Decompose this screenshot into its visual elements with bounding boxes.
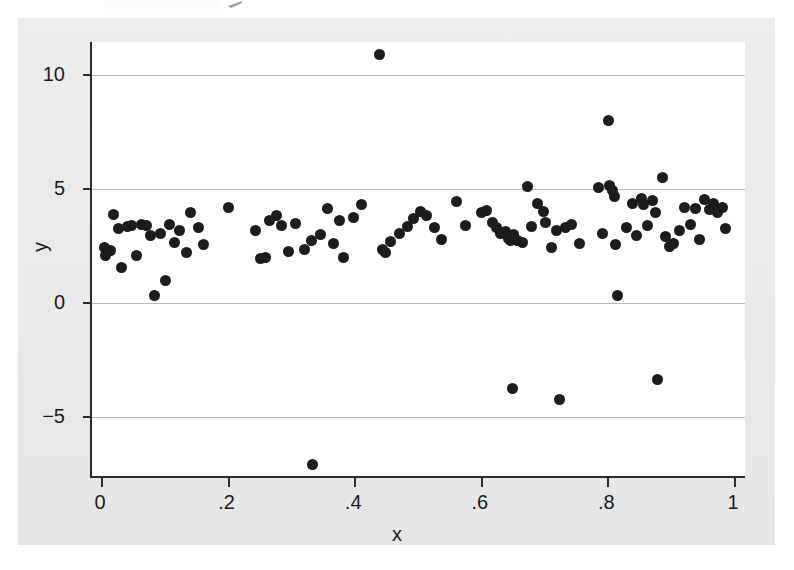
scatter-point bbox=[597, 228, 608, 239]
gridline-y bbox=[92, 417, 745, 418]
scatter-point bbox=[260, 252, 271, 263]
scatter-point bbox=[348, 212, 359, 223]
scatter-point bbox=[674, 225, 685, 236]
scatter-point bbox=[460, 220, 471, 231]
scatter-point bbox=[451, 196, 462, 207]
scatter-point bbox=[276, 220, 287, 231]
scatter-point bbox=[694, 234, 705, 245]
scatter-point bbox=[593, 182, 604, 193]
scatter-point bbox=[328, 238, 339, 249]
scatter-point bbox=[193, 222, 204, 233]
scatter-point bbox=[538, 206, 549, 217]
scatter-point bbox=[380, 247, 391, 258]
scatter-point bbox=[566, 219, 577, 230]
x-axis-tick bbox=[607, 478, 609, 487]
x-axis-tick-label: 0 bbox=[70, 492, 130, 512]
scatter-point bbox=[338, 252, 349, 263]
gridline-y bbox=[92, 189, 745, 190]
scatter-point bbox=[621, 222, 632, 233]
scatter-point bbox=[481, 205, 492, 216]
scatter-point bbox=[631, 230, 642, 241]
scatter-point bbox=[160, 275, 171, 286]
y-axis-tick bbox=[83, 302, 92, 304]
x-axis-tick-label: 1 bbox=[703, 492, 763, 512]
x-axis-tick-label: .4 bbox=[323, 492, 383, 512]
plot-area bbox=[90, 42, 745, 478]
scatter-point bbox=[198, 239, 209, 250]
x-axis-tick bbox=[354, 478, 356, 487]
scatter-point bbox=[374, 49, 385, 60]
x-axis-tick bbox=[228, 478, 230, 487]
scatter-point bbox=[290, 218, 301, 229]
scatter-point bbox=[283, 246, 294, 257]
gridline-y bbox=[92, 303, 745, 304]
y-axis-tick bbox=[83, 416, 92, 418]
x-axis-tick bbox=[734, 478, 736, 487]
scatter-point bbox=[540, 217, 551, 228]
scatter-point bbox=[185, 207, 196, 218]
scatter-point bbox=[668, 238, 679, 249]
scatter-point bbox=[657, 172, 668, 183]
scatter-point bbox=[436, 234, 447, 245]
x-axis-tick-label: .2 bbox=[197, 492, 257, 512]
scatter-point bbox=[334, 215, 345, 226]
scatter-point bbox=[181, 247, 192, 258]
scatter-point bbox=[421, 210, 432, 221]
scatter-point bbox=[250, 225, 261, 236]
scatter-point bbox=[546, 242, 557, 253]
scatter-point bbox=[429, 222, 440, 233]
scatter-point bbox=[155, 228, 166, 239]
scatter-point bbox=[174, 225, 185, 236]
y-axis-tick-label: 0 bbox=[5, 292, 65, 312]
scatter-point bbox=[554, 394, 565, 405]
scatter-point bbox=[652, 374, 663, 385]
scatter-point bbox=[322, 203, 333, 214]
scatter-point bbox=[610, 239, 621, 250]
scatter-point bbox=[315, 229, 326, 240]
partial-glyph-icon bbox=[228, 1, 242, 8]
x-axis-tick-label: .8 bbox=[576, 492, 636, 512]
scatter-point bbox=[108, 209, 119, 220]
scatter-point bbox=[609, 191, 620, 202]
scatter-point bbox=[603, 115, 614, 126]
scatter-point bbox=[685, 219, 696, 230]
scatter-point bbox=[717, 202, 728, 213]
scatter-point bbox=[307, 459, 318, 470]
scatter-point bbox=[131, 250, 142, 261]
scatter-point bbox=[679, 202, 690, 213]
y-axis-tick-label: 5 bbox=[5, 178, 65, 198]
scatter-point bbox=[517, 237, 528, 248]
scatter-point bbox=[223, 202, 234, 213]
y-axis-tick-label: 10 bbox=[5, 64, 65, 84]
scatter-point bbox=[356, 199, 367, 210]
scatter-point bbox=[526, 221, 537, 232]
scatter-point bbox=[650, 207, 661, 218]
scatter-point bbox=[116, 262, 127, 273]
scatter-point bbox=[169, 237, 180, 248]
scatter-point bbox=[612, 290, 623, 301]
scatter-point bbox=[574, 238, 585, 249]
y-axis-title: y bbox=[29, 242, 52, 252]
scatter-point bbox=[720, 223, 731, 234]
top-edge-artifact bbox=[104, 0, 222, 9]
scatter-point bbox=[149, 290, 160, 301]
scatter-point bbox=[690, 203, 701, 214]
scatter-point bbox=[105, 245, 116, 256]
y-axis-tick bbox=[83, 74, 92, 76]
y-axis-tick-label: −5 bbox=[5, 406, 65, 426]
scatter-point bbox=[385, 236, 396, 247]
scatter-point bbox=[507, 383, 518, 394]
gridline-y bbox=[92, 75, 745, 76]
x-axis-tick bbox=[481, 478, 483, 487]
x-axis-tick-label: .6 bbox=[450, 492, 510, 512]
scatter-point bbox=[522, 181, 533, 192]
scatter-point bbox=[647, 195, 658, 206]
x-axis-tick bbox=[101, 478, 103, 487]
scatter-point bbox=[642, 220, 653, 231]
y-axis-tick bbox=[83, 188, 92, 190]
x-axis-title: x bbox=[0, 523, 794, 546]
